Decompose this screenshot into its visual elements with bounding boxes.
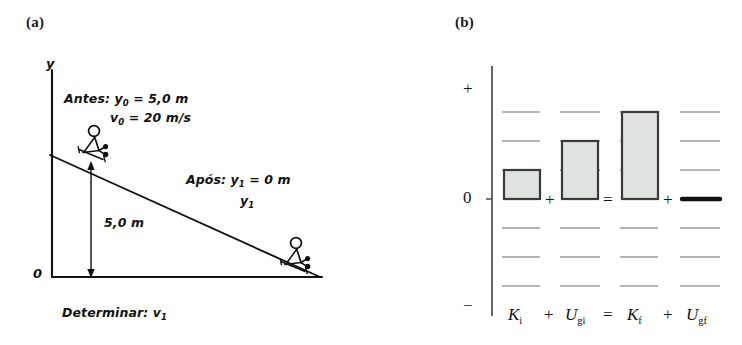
origin-label: 0: [33, 266, 42, 281]
bar-operator-plus-2: +: [663, 190, 673, 210]
y-axis-label: y: [46, 56, 54, 71]
determine-prefix: Determinar: v: [62, 305, 161, 320]
before-line2-sub: 0: [118, 117, 124, 127]
equation-term-U-gf: Ugf: [686, 305, 707, 325]
after-line1-value: = 0 m: [245, 172, 291, 187]
before-state-line-1: Antes: y0 = 5,0 m: [64, 91, 188, 106]
determine-label: Determinar: v1: [62, 305, 167, 320]
bar-K-i: [504, 170, 540, 199]
axis-plus-label: +: [463, 79, 473, 99]
rider-figure-bottom: [280, 238, 310, 274]
equation-term-K-i: Ki: [508, 305, 522, 325]
equation-term-U-gi: Ugi: [565, 305, 585, 325]
equation-operator-plus-1: +: [544, 305, 554, 325]
after-line1-sub: 1: [239, 179, 245, 189]
before-line2-prefix: v: [110, 110, 118, 125]
before-state-line-2: v0 = 20 m/s: [110, 110, 191, 125]
determine-sub: 1: [161, 312, 167, 322]
after-line2-prefix: y: [240, 193, 248, 208]
before-line1-sub: 0: [123, 98, 129, 108]
term-K-i-sub: i: [519, 315, 522, 326]
term-K-i-symbol: K: [508, 305, 519, 324]
bar-K-f: [622, 112, 658, 199]
term-U-gi-symbol: U: [565, 305, 577, 324]
panel-a-diagram: (a): [0, 0, 400, 345]
height-arrow-up: [87, 161, 94, 170]
term-K-f-sub: f: [638, 315, 642, 326]
before-line1-value: = 5,0 m: [129, 91, 189, 106]
physics-figure: (a): [0, 0, 742, 345]
term-U-gi-sub: gi: [577, 315, 585, 326]
term-K-f-symbol: K: [627, 305, 638, 324]
panel-b-energy-bar-chart: (b): [400, 0, 742, 345]
equation-term-K-f: Kf: [627, 305, 642, 325]
axis-minus-label: −: [463, 296, 473, 316]
after-line1-prefix: Após: y: [186, 172, 239, 187]
bar-operator-equals: =: [603, 190, 613, 210]
axis-zero-label: 0: [463, 188, 472, 208]
height-label: 5,0 m: [104, 215, 144, 230]
after-line2-sub: 1: [248, 200, 254, 210]
term-U-gf-sub: gf: [698, 315, 707, 326]
before-line1-prefix: Antes: y: [64, 91, 123, 106]
chart-bars: [504, 112, 720, 199]
energy-bar-chart-drawing: [400, 0, 742, 345]
before-line2-value: = 20 m/s: [124, 110, 191, 125]
equation-operator-plus-2: +: [663, 305, 673, 325]
term-U-gf-symbol: U: [686, 305, 698, 324]
rider-figure-top: [78, 126, 108, 162]
after-state-line-2: y1: [240, 193, 254, 208]
bar-operator-plus-1: +: [545, 190, 555, 210]
equation-operator-equals: =: [603, 305, 613, 325]
bar-U-gi: [562, 141, 598, 199]
after-state-line-1: Após: y1 = 0 m: [186, 172, 291, 187]
